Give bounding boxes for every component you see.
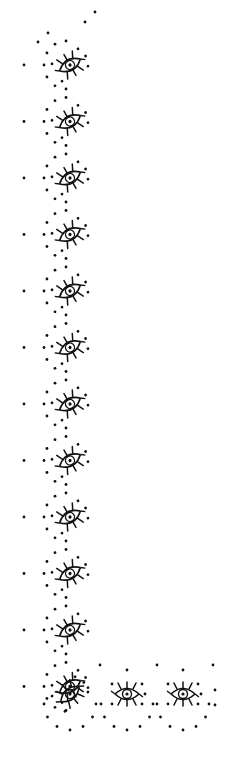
dotted-scallop bbox=[23, 492, 68, 543]
eye-icon bbox=[50, 271, 93, 310]
dotted-scallop bbox=[23, 322, 68, 373]
dotted-scallop bbox=[100, 703, 155, 732]
eye-icon bbox=[111, 682, 147, 706]
eye-icon bbox=[167, 682, 203, 706]
dotted-scallop bbox=[23, 266, 68, 317]
eye-icon bbox=[50, 497, 93, 536]
dotted-scallop bbox=[23, 96, 68, 147]
eye-icon bbox=[50, 553, 93, 592]
eye-icon bbox=[50, 440, 93, 479]
dotted-scallop bbox=[23, 605, 68, 656]
dotted-scallop bbox=[23, 379, 68, 430]
eye-icon bbox=[50, 45, 93, 84]
eye-icon bbox=[50, 101, 93, 140]
eye-icon bbox=[50, 384, 93, 423]
eye-icon bbox=[50, 158, 93, 197]
dotted-scallop bbox=[23, 40, 68, 91]
eye-border-artwork bbox=[0, 0, 227, 781]
dotted-scallop bbox=[23, 209, 68, 260]
dotted-scallop bbox=[23, 435, 68, 486]
dotted-scallop bbox=[23, 548, 68, 599]
eye-icon bbox=[50, 214, 93, 253]
eye-icon bbox=[50, 610, 93, 649]
eye-icon bbox=[50, 327, 93, 366]
dotted-scallop bbox=[23, 153, 68, 204]
dotted-scallop bbox=[156, 703, 211, 732]
